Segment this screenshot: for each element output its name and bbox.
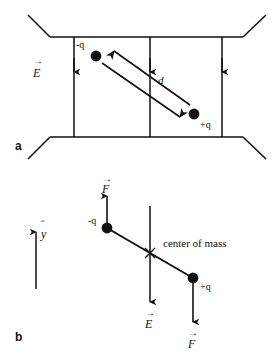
force-on-negative-charge: → F: [101, 173, 112, 226]
center-of-mass-label: center of mass: [163, 237, 227, 249]
force-label-neg: F: [101, 182, 110, 196]
positive-charge-dot: [189, 109, 200, 120]
field-label-panel-a: → E: [32, 55, 43, 80]
force-on-positive-charge: → F: [187, 280, 198, 351]
panel-label-a: a: [15, 139, 22, 153]
dipole-separation-arrows: [102, 51, 190, 117]
negative-charge-label: -q: [76, 39, 84, 50]
field-vector-accent: →: [33, 55, 43, 66]
negative-charge-dot-b: [102, 223, 113, 234]
charge-positive-panel-a: +q: [189, 109, 211, 130]
negative-charge-label-b: -q: [88, 215, 96, 226]
positive-charge-label: +q: [200, 119, 211, 130]
field-label-text: E: [32, 66, 41, 80]
panel-a: → E d -q +q a: [15, 15, 266, 159]
positive-charge-label-b: +q: [200, 281, 211, 292]
charge-negative-panel-a: -q: [76, 39, 101, 61]
separation-label: d: [158, 74, 164, 86]
unit-vector-y-label: y: [40, 227, 47, 241]
dipole-in-field-diagram: → E d -q +q a: [0, 0, 277, 359]
charge-negative-panel-b: -q: [88, 215, 112, 233]
panel-label-b: b: [15, 330, 22, 344]
top-plate: [28, 15, 266, 37]
bottom-plate: [28, 137, 266, 159]
positive-charge-dot-b: [188, 273, 199, 284]
unit-vector-y: ˆ y: [36, 219, 47, 289]
field-label-text-b: E: [144, 317, 153, 331]
panel-b: ˆ y → E center of mass → F: [15, 173, 227, 351]
field-line-panel-b: → E: [144, 206, 155, 331]
physics-figure: → E d -q +q a: [0, 0, 277, 359]
force-label-pos: F: [187, 337, 196, 351]
charge-positive-panel-b: +q: [188, 273, 211, 292]
negative-charge-dot: [91, 51, 102, 62]
